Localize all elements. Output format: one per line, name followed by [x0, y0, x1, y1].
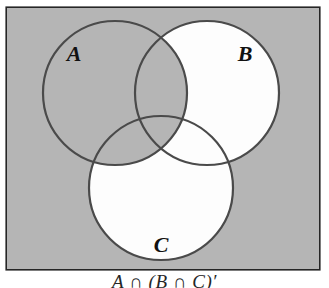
venn-diagram-canvas: A B C: [0, 0, 329, 274]
venn-diagram-panel: A B C: [0, 0, 329, 274]
figure-caption-text: A ∩ (B ∩ C)′: [0, 272, 329, 288]
set-label-a: A: [65, 41, 82, 66]
set-label-b: B: [237, 41, 253, 66]
figure-caption: A ∩ (B ∩ C)′: [0, 272, 329, 288]
set-label-c: C: [154, 232, 169, 257]
shaded-region-b-union-c-minus-a: [6, 7, 320, 270]
venn-diagram-figure: A B C A ∩ (B ∩ C)′: [0, 0, 329, 288]
